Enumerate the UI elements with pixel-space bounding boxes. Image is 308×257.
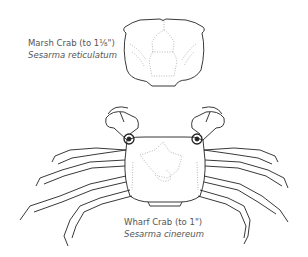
crab-illustration (0, 0, 308, 257)
marsh-crab-carapace-icon (124, 19, 205, 86)
wharf-crab-icon (20, 107, 288, 246)
